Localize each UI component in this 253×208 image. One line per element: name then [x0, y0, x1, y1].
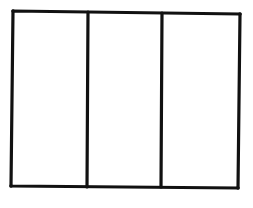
outer-rectangle	[11, 11, 240, 188]
corner-dot-4	[9, 184, 13, 188]
corner-dot-3	[236, 186, 240, 190]
three-column-diagram	[0, 0, 253, 208]
corner-dot-2	[238, 12, 242, 16]
corner-dot-1	[11, 9, 15, 13]
column-divider-2	[161, 13, 162, 187]
column-divider-1	[87, 12, 88, 187]
